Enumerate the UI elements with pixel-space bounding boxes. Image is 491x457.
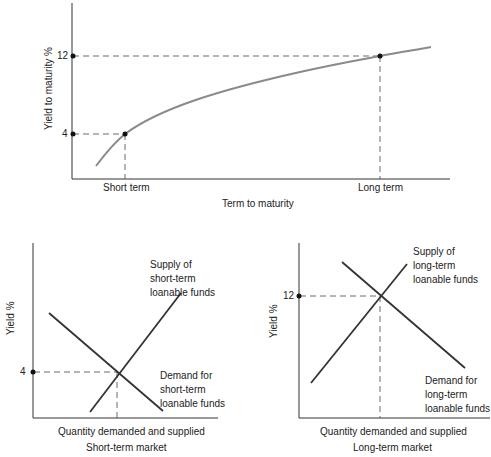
left-supply-label: Supply of short-term loanable funds (150, 258, 215, 300)
right-title: Long-term market (353, 442, 432, 454)
yield-curve-chart (71, 3, 451, 179)
left-title: Short-term market (86, 442, 167, 454)
short-term-label: Short term (103, 182, 150, 194)
tick-4: 4 (62, 128, 68, 140)
point-12-axis (71, 54, 76, 59)
supply-line (311, 264, 407, 383)
left-x-label: Quantity demanded and supplied (58, 426, 205, 438)
top-y-label: Yield to maturity % (43, 47, 55, 130)
demand-line (49, 313, 163, 411)
left-tick-4: 4 (20, 366, 26, 378)
point-4 (31, 370, 36, 375)
tick-12: 12 (57, 50, 68, 62)
yield-curve (96, 47, 431, 166)
right-tick-12: 12 (283, 290, 294, 302)
point-short (123, 132, 128, 137)
point-4-axis (71, 132, 76, 137)
right-y-label: Yield % (268, 304, 280, 338)
right-x-label: Quantity demanded and supplied (320, 426, 467, 438)
top-x-label: Term to maturity (222, 198, 294, 210)
left-demand-label: Demand for short-term loanable funds (160, 369, 225, 411)
point-long (378, 54, 383, 59)
left-y-label: Yield % (5, 301, 17, 335)
long-term-label: Long term (358, 182, 403, 194)
diagram-canvas (0, 0, 491, 457)
point-12 (297, 294, 302, 299)
right-demand-label: Demand for long-term loanable funds (425, 374, 490, 416)
right-supply-label: Supply of long-term loanable funds (413, 245, 478, 287)
